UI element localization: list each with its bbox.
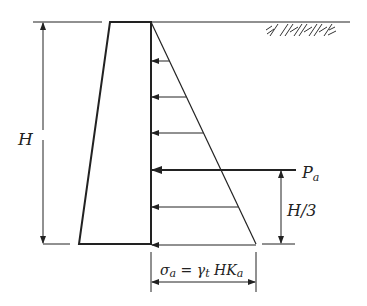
stress-formula-label: σa = γt HKa (160, 262, 243, 280)
resultant-height-label: H/3 (286, 201, 317, 220)
resultant-force-label: Pa (301, 163, 319, 184)
pressure-arrows (152, 61, 256, 245)
retaining-wall-diagram: H Pa H/3 σa = γt HKa (0, 0, 367, 306)
retaining-wall (79, 22, 151, 244)
height-label: H (17, 129, 34, 149)
soil-hatch-icon (266, 24, 336, 36)
